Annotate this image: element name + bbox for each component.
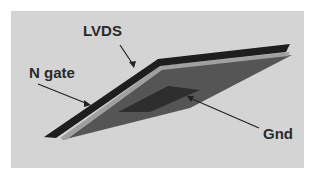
gnd-label: Gnd — [263, 125, 293, 142]
layered-plate-diagram — [0, 0, 319, 176]
lvds-label: LVDS — [83, 22, 122, 39]
lvds-arrowhead — [129, 61, 136, 68]
n-gate-arrow — [38, 84, 88, 104]
gnd-arrow — [190, 98, 259, 128]
n-gate-label: N gate — [29, 64, 75, 81]
